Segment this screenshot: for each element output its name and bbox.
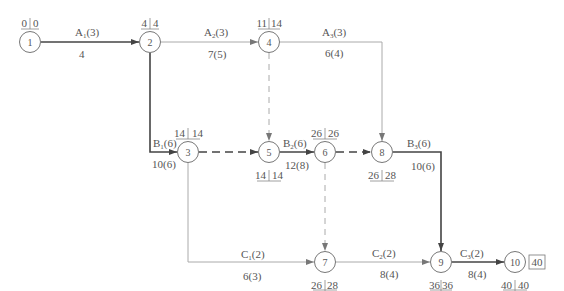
edge-below-c2: 8(4): [380, 268, 399, 281]
edge-label-b1: B1(6): [153, 137, 177, 151]
edge-label-c2: C2(2): [372, 247, 396, 261]
svg-text:10: 10: [510, 257, 520, 268]
svg-text:14: 14: [174, 127, 186, 139]
svg-text:28: 28: [327, 279, 339, 291]
node-7: 7: [315, 252, 336, 273]
edge-below-a2: 7(5): [208, 48, 227, 61]
node-3-times: 14 14: [174, 127, 204, 139]
svg-text:0: 0: [33, 17, 39, 29]
svg-text:26: 26: [311, 127, 323, 139]
svg-text:26: 26: [311, 279, 323, 291]
edge-below-a3: 6(4): [325, 47, 344, 60]
node-9: 9: [431, 252, 452, 273]
svg-text:5: 5: [267, 147, 272, 158]
svg-text:2: 2: [148, 37, 153, 48]
svg-text:36: 36: [442, 279, 454, 291]
node-1-times: 0 0: [21, 17, 39, 29]
node-8-times: 26 28: [368, 169, 397, 181]
svg-text:8: 8: [380, 147, 385, 158]
svg-text:14: 14: [271, 17, 283, 29]
edge-below-c3: 8(4): [468, 268, 487, 281]
node-8: 8: [372, 142, 393, 163]
edge-label-a2: A2(3): [204, 26, 229, 40]
svg-text:14: 14: [272, 169, 284, 181]
node-6-times: 26 26: [311, 127, 340, 139]
edge-label-b3: B3(6): [407, 137, 431, 151]
svg-text:26: 26: [328, 127, 340, 139]
svg-text:6: 6: [323, 147, 328, 158]
node-7-times: 26 28: [311, 279, 339, 291]
svg-text:14: 14: [255, 169, 267, 181]
node-3: 3: [178, 142, 199, 163]
node-9-times: 36 36: [429, 279, 454, 291]
node-10: 10: [505, 252, 526, 273]
edge-below-c1: 6(3): [243, 270, 262, 283]
node-2-times: 4 4: [141, 17, 159, 29]
node-1: 1: [20, 32, 41, 53]
edge-below-b3: 10(6): [411, 160, 435, 173]
node-6: 6: [315, 142, 336, 163]
svg-text:36: 36: [429, 279, 441, 291]
svg-text:14: 14: [192, 127, 204, 139]
edge-label-a1: A1(3): [75, 26, 100, 40]
svg-text:9: 9: [439, 257, 444, 268]
node-10-boxed-total: 40: [529, 255, 545, 269]
edge-label-b2: B2(6): [283, 137, 307, 151]
node-2: 2: [140, 32, 161, 53]
edge-below-a1: 4: [79, 48, 85, 60]
svg-text:3: 3: [186, 147, 191, 158]
svg-text:4: 4: [267, 37, 272, 48]
node-5-times: 14 14: [255, 169, 284, 181]
edge-label-c3: C3(2): [460, 247, 484, 261]
svg-text:1: 1: [28, 37, 33, 48]
svg-text:40: 40: [532, 256, 544, 268]
edge-label-a3: A3(3): [322, 26, 347, 40]
edge-label-c1: C1(2): [241, 248, 265, 262]
node-5: 5: [259, 142, 280, 163]
network-diagram: A1(3) 4 A2(3) 7(5) A3(3) 6(4) B1(6) 10(6…: [0, 0, 564, 291]
edge-below-b1: 10(6): [152, 158, 176, 171]
node-10-times: 40 40: [501, 279, 530, 291]
svg-text:26: 26: [368, 169, 380, 181]
svg-text:4: 4: [153, 17, 159, 29]
svg-text:7: 7: [323, 257, 328, 268]
node-4-times: 11 14: [256, 17, 282, 29]
node-4: 4: [259, 32, 280, 53]
svg-text:4: 4: [142, 17, 148, 29]
edge-below-b2: 12(8): [285, 159, 309, 172]
svg-text:28: 28: [385, 169, 397, 181]
svg-text:40: 40: [518, 279, 530, 291]
svg-text:0: 0: [22, 17, 28, 29]
svg-text:11: 11: [256, 17, 267, 29]
svg-text:40: 40: [501, 279, 513, 291]
